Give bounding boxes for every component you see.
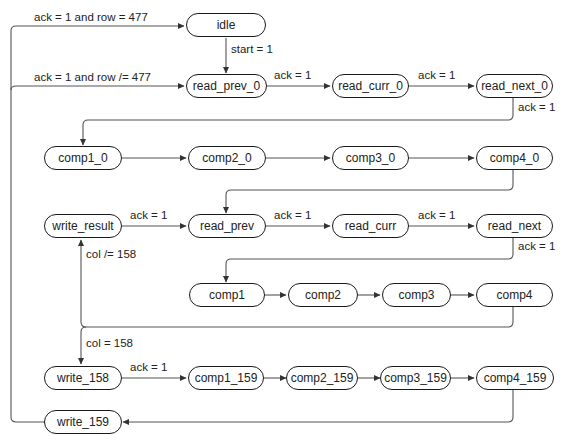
state-read-curr-0[interactable]: read_curr_0 [332,74,409,98]
label-ack-wr-rp: ack = 1 [130,209,167,221]
label-ack-rc-rn: ack = 1 [418,209,455,221]
edge-comp4-0-read-prev [226,170,513,213]
state-write-158[interactable]: write_158 [44,366,122,390]
label-row-eq-477: ack = 1 and row = 477 [34,11,148,23]
state-comp3-0[interactable]: comp3_0 [332,146,409,170]
state-read-next-0[interactable]: read_next_0 [476,74,553,98]
edge-read-next-0-comp1-0 [83,98,513,145]
state-comp4-0[interactable]: comp4_0 [476,146,553,170]
state-comp4-159[interactable]: comp4_159 [476,366,554,390]
state-read-next[interactable]: read_next [476,214,553,238]
label-ack-w158-c1159: ack = 1 [130,361,167,373]
label-ack-rn0-c10: ack = 1 [518,101,555,113]
label-col-neq-158: col /= 158 [86,248,136,260]
state-read-curr[interactable]: read_curr [332,214,409,238]
label-col-eq-158: col = 158 [86,337,133,349]
label-row-neq-477: ack = 1 and row /= 477 [34,71,151,83]
label-ack-rp-rc: ack = 1 [274,209,311,221]
label-ack-rc0-rn0: ack = 1 [418,69,455,81]
state-comp2[interactable]: comp2 [288,283,358,307]
edge-write159-read-prev-0 [11,86,184,90]
state-comp1[interactable]: comp1 [189,283,265,307]
state-comp3[interactable]: comp3 [382,283,451,307]
state-comp4[interactable]: comp4 [476,283,553,307]
state-comp1-159[interactable]: comp1_159 [188,366,264,390]
state-write-159[interactable]: write_159 [44,410,122,434]
state-idle[interactable]: idle [186,13,266,37]
label-ack-rn-c1: ack = 1 [518,240,555,252]
state-read-prev-0[interactable]: read_prev_0 [186,74,267,98]
edge-comp4-159-write-159 [123,390,513,422]
edge-read-next-comp1 [226,238,513,282]
state-write-result[interactable]: write_result [44,214,122,238]
state-comp3-159[interactable]: comp3_159 [380,366,451,390]
state-comp2-159[interactable]: comp2_159 [286,366,358,390]
state-read-prev[interactable]: read_prev [188,214,266,238]
label-start: start = 1 [231,43,273,55]
state-comp2-0[interactable]: comp2_0 [188,146,266,170]
label-ack-rp0-rc0: ack = 1 [274,69,311,81]
state-comp1-0[interactable]: comp1_0 [44,146,122,170]
